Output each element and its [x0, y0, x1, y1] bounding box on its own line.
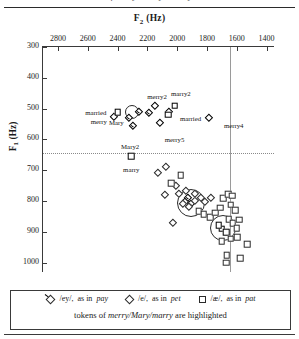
data-point-label: merry5: [165, 135, 185, 142]
diamond-icon: [124, 294, 134, 303]
data-point-e: [211, 198, 217, 204]
data-point-e: [209, 118, 215, 124]
y-tick-label: 400: [7, 72, 39, 81]
x-tick: [237, 47, 238, 51]
x-tick: [177, 47, 178, 51]
top-divider: [4, 7, 295, 8]
square-icon: [219, 238, 226, 245]
y-tick: [43, 170, 47, 171]
data-point-ey: [149, 113, 155, 119]
square-icon: [217, 205, 224, 212]
data-point-ae: [227, 235, 234, 242]
data-point-e: [189, 207, 195, 213]
data-point-ae: [172, 102, 179, 109]
legend-note-words: merry/Mary/marry: [108, 310, 173, 320]
legend-box: /ey/, as in pay/e/, as in pet/æ/, as in …: [10, 290, 291, 330]
data-point-e: [114, 117, 120, 123]
diamond-icon: [151, 101, 160, 110]
data-point-label: marry2: [171, 89, 191, 96]
data-point-label: Mary2: [121, 143, 139, 150]
y-tick: [43, 201, 47, 202]
square-icon: [232, 207, 239, 214]
data-point-ae: [223, 252, 230, 259]
x-tick: [207, 47, 208, 51]
y-tick: [43, 263, 47, 264]
data-point-e: [195, 194, 201, 200]
square-icon: [237, 255, 244, 262]
data-point-ae: [223, 229, 230, 236]
data-point-ae: [236, 216, 243, 223]
data-point-ae: [217, 205, 224, 212]
square-icon: [172, 102, 179, 109]
y-tick-label: 300: [7, 41, 39, 50]
y-tick: [43, 109, 47, 110]
horizontal-reference-line: [43, 153, 274, 154]
data-point-ae: [234, 234, 241, 241]
data-point-ae: [128, 153, 135, 160]
y-tick-label: 900: [7, 226, 39, 235]
x-tick: [88, 47, 89, 51]
legend-note: tokens of merry/Mary/marry are highlight…: [11, 310, 290, 320]
data-point-label: merry: [91, 118, 107, 125]
data-point-ae: [244, 241, 251, 248]
legend-items: /ey/, as in pay/e/, as in pet/æ/, as in …: [11, 294, 290, 303]
x-tick: [58, 47, 59, 51]
data-point-ae: [168, 180, 175, 187]
diamond-icon: [161, 163, 170, 172]
diamond-icon: [153, 168, 162, 177]
legend-symbol: /e/,: [138, 294, 148, 303]
x-tick-label: 1400: [247, 34, 287, 43]
bottom-divider: [4, 334, 295, 335]
legend-text: as in: [77, 294, 92, 303]
x-tick: [267, 47, 268, 51]
square-icon: [244, 241, 251, 248]
data-point-ae: [223, 259, 230, 266]
square-icon: [223, 259, 230, 266]
legend-example-word: pat: [245, 294, 255, 303]
data-point-ae: [237, 255, 244, 262]
data-point-ae: [233, 225, 240, 232]
legend-example-word: pay: [96, 294, 108, 303]
square-icon: [234, 234, 241, 241]
square-icon: [227, 235, 234, 242]
cut-off-caption: of merry / Mary / marry: [0, 0, 299, 2]
data-point-e: [158, 173, 164, 179]
legend-note-suffix: are highlighted: [173, 310, 227, 320]
data-point-e: [166, 167, 172, 173]
square-icon: [215, 222, 222, 229]
data-point-e: [186, 191, 192, 197]
legend-example-word: pet: [171, 294, 181, 303]
square-icon: [236, 216, 243, 223]
diamond-with-tail-icon: [45, 294, 55, 303]
square-icon: [197, 294, 207, 303]
y-tick-label: 800: [7, 195, 39, 204]
square-icon: [229, 192, 236, 199]
data-point-ae: [232, 207, 239, 214]
x-tick: [147, 47, 148, 51]
data-point-ae: [229, 192, 236, 199]
data-point-e: [159, 123, 165, 129]
data-point-label: married: [85, 109, 106, 116]
square-icon: [178, 172, 185, 179]
data-point-ae: [178, 172, 185, 179]
square-icon: [233, 225, 240, 232]
x-axis-subscript: 2: [140, 18, 144, 26]
square-icon: [223, 252, 230, 259]
legend-text: as in: [152, 294, 167, 303]
square-icon: [168, 180, 175, 187]
data-point-label: merry4: [224, 121, 244, 128]
diamond-icon: [155, 118, 164, 127]
diamond-icon: [204, 113, 213, 122]
vowel-plot-figure: of merry / Mary / marry F2 (Hz) F1 (Hz) …: [0, 0, 299, 339]
diamond-icon: [168, 219, 177, 228]
data-point-ae: [115, 109, 122, 116]
data-point-ae: [215, 222, 222, 229]
legend-symbol: /æ/,: [211, 294, 223, 303]
y-tick-label: 600: [7, 133, 39, 142]
legend-text: as in: [226, 294, 241, 303]
legend-item: /ey/, as in pay: [45, 294, 107, 303]
data-point-ey: [133, 126, 139, 132]
x-axis-title: F2 (Hz): [0, 13, 299, 26]
y-tick: [43, 47, 47, 48]
diamond-icon: [161, 191, 170, 200]
